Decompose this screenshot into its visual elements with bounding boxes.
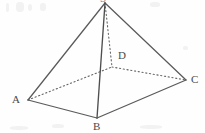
edge-B-C <box>97 80 186 118</box>
visible-edges-group <box>28 3 186 118</box>
edge-A-B <box>28 100 97 118</box>
edge-apex-A <box>28 3 105 100</box>
hidden-edges-group <box>28 3 186 100</box>
pyramid-figure: A B C D S <box>0 0 205 133</box>
pyramid-svg <box>0 0 205 133</box>
vertex-label-apex: S <box>100 0 106 4</box>
edge-apex-D <box>105 3 112 67</box>
edge-apex-C <box>105 3 186 80</box>
vertex-label-C: C <box>191 74 198 85</box>
vertex-label-D: D <box>118 50 126 61</box>
vertex-label-B: B <box>93 121 100 132</box>
vertex-label-A: A <box>12 94 20 105</box>
edge-apex-B <box>97 3 105 118</box>
